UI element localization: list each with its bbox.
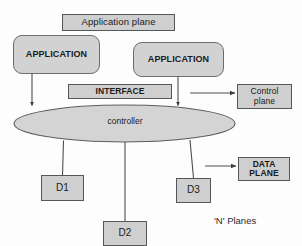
data-plane-line-2: PLANE [249, 169, 278, 178]
data-plane-label-box: DATA PLANE [238, 157, 290, 181]
device-node-d2[interactable]: D2 [103, 221, 147, 246]
control-plane-line-2: plane [254, 97, 275, 106]
application-node-right[interactable]: APPLICATION [133, 42, 224, 77]
sdn-planes-diagram: Application plane APPLICATION APPLICATIO… [0, 0, 302, 246]
controller-label: controller [88, 116, 162, 126]
application-plane-label-box: Application plane [62, 14, 175, 31]
connector-controller-to-d3 [190, 140, 194, 178]
n-planes-annotation: 'N' Planes [214, 215, 294, 226]
device-node-d1[interactable]: D1 [41, 175, 84, 201]
interface-label-box: INTERFACE [68, 84, 172, 99]
device-node-d3[interactable]: D3 [176, 178, 211, 203]
connector-controller-to-d1 [63, 141, 64, 176]
control-plane-label-box: Control plane [237, 84, 292, 109]
application-node-left[interactable]: APPLICATION [13, 35, 100, 74]
